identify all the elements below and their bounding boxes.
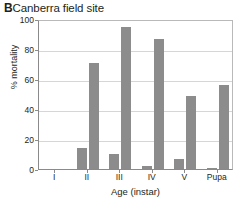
gridline: [39, 111, 232, 112]
x-axis-tick-label: IV: [148, 172, 156, 182]
y-axis-tick-label: 80: [0, 46, 34, 55]
x-axis-tick-label: III: [116, 172, 123, 182]
x-axis-tick-label: Pupa: [207, 172, 227, 182]
figure-title-text: Canberra field site: [13, 2, 104, 14]
y-axis-tick-labels: 020406080100: [0, 20, 34, 170]
y-axis-tick-label: 40: [0, 106, 34, 115]
y-axis-tick-label: 60: [0, 76, 34, 85]
bar: [77, 148, 87, 169]
bar: [89, 63, 99, 170]
figure-title: BCanberra field site: [4, 2, 104, 15]
x-axis-label: Age (instar): [38, 186, 233, 197]
figure-panel-b: BCanberra field site % mortality 0204060…: [0, 0, 238, 203]
bar: [154, 39, 164, 170]
bar: [207, 168, 217, 170]
x-axis-tick-labels: IIIIIIIVVPupa: [38, 172, 233, 184]
x-axis-tick-label: I: [53, 172, 55, 182]
bar: [109, 154, 119, 169]
bar: [142, 166, 152, 169]
gridline: [39, 51, 232, 52]
bar: [121, 27, 131, 170]
bar: [186, 96, 196, 170]
x-axis-tick-label: V: [181, 172, 187, 182]
gridline: [39, 141, 232, 142]
gridline: [39, 81, 232, 82]
x-axis-tick-label: II: [84, 172, 89, 182]
bar: [174, 159, 184, 170]
y-axis-tick-label: 20: [0, 136, 34, 145]
y-axis-tick-label: 100: [0, 16, 34, 25]
panel-letter: B: [4, 1, 13, 15]
plot-area: [38, 20, 233, 170]
y-axis-tick-label: 0: [0, 166, 34, 175]
bar: [219, 85, 229, 169]
